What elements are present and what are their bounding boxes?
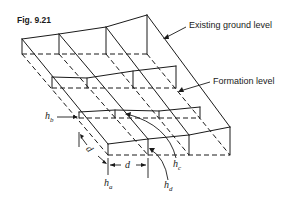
hc-label: hc	[173, 159, 181, 172]
d-horizontal-label: d	[125, 160, 130, 170]
formation-level-leader	[180, 82, 210, 91]
ground-line-row-3	[79, 107, 200, 112]
ha-label: ha	[104, 178, 113, 191]
figure-label: Fig. 9.21	[17, 16, 51, 25]
hd-label: hd	[164, 180, 173, 193]
formation-level-label: Formation level	[213, 77, 275, 86]
earthwork-grid-diagram	[0, 0, 294, 205]
existing-ground-level-label: Existing ground level	[189, 21, 272, 30]
hb-label: hb	[45, 111, 54, 124]
